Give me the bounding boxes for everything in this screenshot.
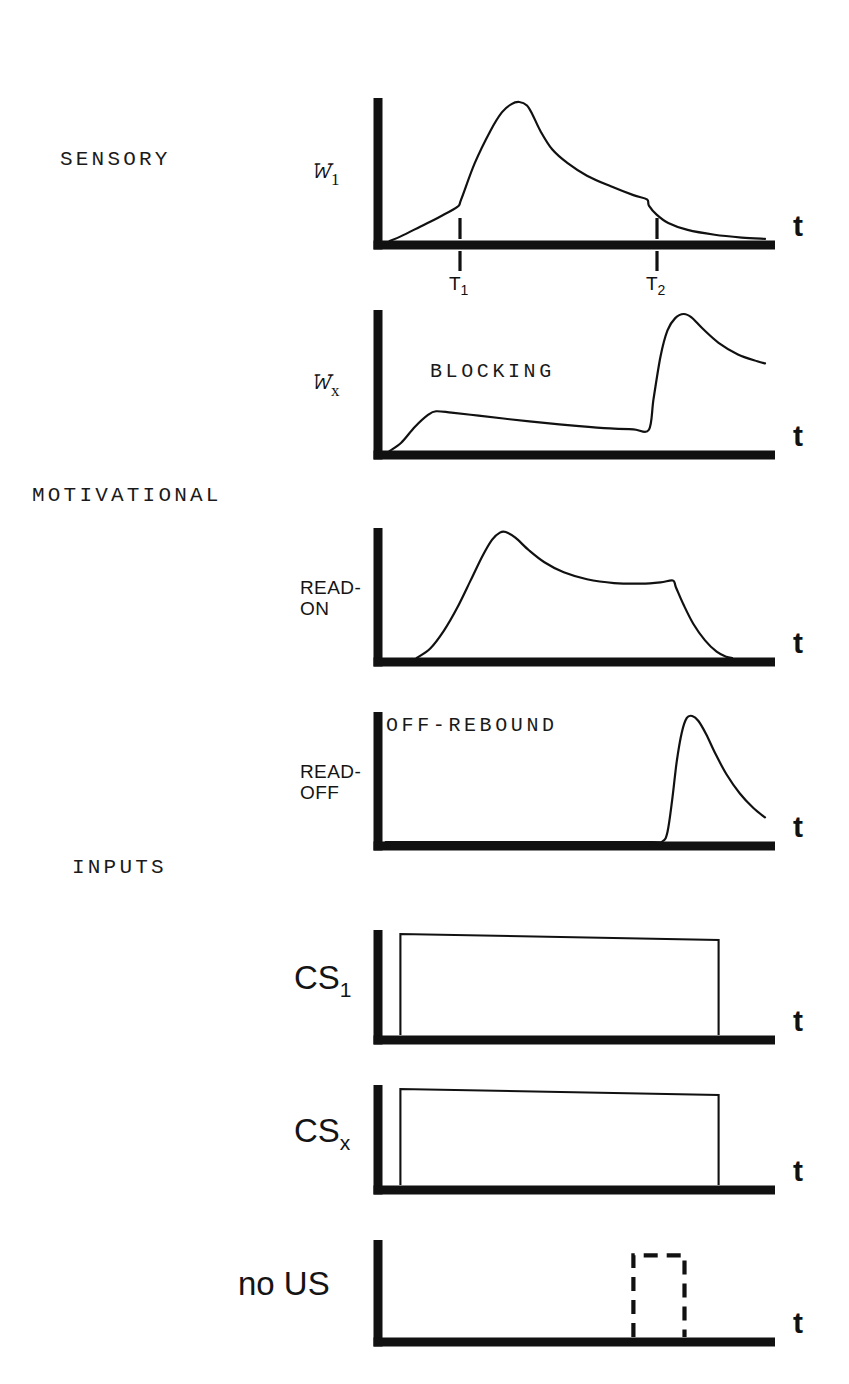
x-axis-sx	[374, 451, 776, 460]
y-axis-cs1	[374, 930, 383, 1045]
group-label-motivational: MOTIVATIONAL	[32, 484, 222, 507]
group-label-sensory: SENSORY	[60, 148, 171, 171]
y-axis-csx	[374, 1085, 383, 1195]
figure-canvas: T1T2SENSORYMOTIVATIONALINPUTS𝚠1t𝚠xBLOCKI…	[0, 0, 849, 1384]
xlabel-s1: t	[793, 209, 803, 243]
x-axis-cs1	[374, 1036, 776, 1045]
x-axis-csx	[374, 1186, 776, 1195]
annotation-sx: BLOCKING	[430, 360, 555, 383]
y-axis-read_off	[374, 712, 383, 851]
xlabel-no_us: t	[793, 1306, 803, 1340]
xlabel-cs1: t	[793, 1004, 803, 1038]
y-axis-sx	[374, 310, 383, 460]
tick-label-T1: T1	[449, 273, 468, 298]
pulse-csx	[400, 1089, 718, 1185]
xlabel-read_off: t	[793, 810, 803, 844]
annotation-read_off: OFF-REBOUND	[386, 714, 558, 737]
ylabel-cs1: CS1	[294, 959, 352, 1002]
x-axis-s1	[374, 241, 776, 250]
pulse-no_us	[633, 1255, 684, 1337]
xlabel-sx: t	[793, 419, 803, 453]
y-axis-no_us	[374, 1240, 383, 1347]
x-axis-no_us	[374, 1338, 776, 1347]
diagram-svg	[0, 0, 849, 1384]
ylabel-csx: CSx	[294, 1112, 350, 1155]
x-axis-read_on	[374, 658, 776, 667]
tick-label-T2: T2	[646, 273, 665, 298]
y-axis-s1	[374, 98, 383, 250]
ylabel-no_us: no US	[238, 1265, 330, 1303]
ylabel-sx: 𝚠x	[310, 361, 340, 401]
xlabel-csx: t	[793, 1154, 803, 1188]
group-label-inputs: INPUTS	[72, 856, 167, 879]
ylabel-s1: 𝚠1	[310, 150, 340, 190]
curve-read_on	[417, 532, 732, 658]
xlabel-read_on: t	[793, 626, 803, 660]
curve-s1	[390, 102, 765, 241]
y-axis-read_on	[374, 528, 383, 667]
ylabel-read_on: READ-ON	[300, 577, 361, 620]
ylabel-read_off: READ-OFF	[300, 761, 361, 804]
pulse-cs1	[400, 934, 718, 1035]
